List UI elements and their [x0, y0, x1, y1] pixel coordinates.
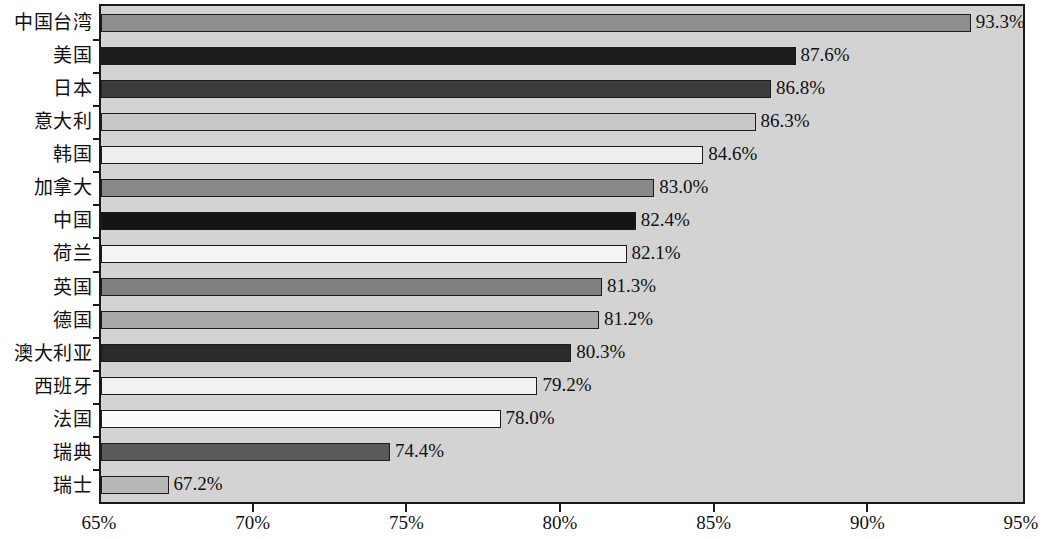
y-axis-tick [93, 204, 101, 206]
y-axis-tick [93, 370, 101, 372]
category-label: 瑞士 [0, 469, 92, 502]
bar [101, 179, 654, 197]
bar-track: 84.6% [101, 138, 1047, 171]
x-axis-tick-label: 95% [1004, 512, 1039, 534]
bar-track: 87.6% [101, 39, 1047, 72]
bar-row: 加拿大83.0% [0, 171, 1047, 204]
bar-row: 美国87.6% [0, 39, 1047, 72]
bar [101, 80, 771, 98]
y-axis-tick [93, 171, 101, 173]
y-axis-tick [93, 436, 101, 438]
bar-row: 意大利86.3% [0, 105, 1047, 138]
bar-row: 瑞士67.2% [0, 469, 1047, 502]
bar [101, 146, 703, 164]
bar-track: 79.2% [101, 370, 1047, 403]
x-axis-tick-label: 80% [543, 512, 578, 534]
category-label: 德国 [0, 304, 92, 337]
y-axis-tick [93, 469, 101, 471]
y-axis-tick [93, 39, 101, 41]
y-axis-tick [93, 403, 101, 405]
bar-track: 86.3% [101, 105, 1047, 138]
y-axis-tick [93, 237, 101, 239]
x-axis-tick [252, 504, 254, 512]
category-label: 意大利 [0, 105, 92, 138]
bar-track: 93.3% [101, 6, 1047, 39]
category-label: 中国 [0, 204, 92, 237]
bar [101, 410, 501, 428]
bar-value-label: 80.3% [571, 343, 625, 361]
x-axis-tick [713, 504, 715, 512]
bar [101, 344, 571, 362]
bar [101, 245, 627, 263]
bar-value-label: 74.4% [390, 442, 444, 460]
bar-track: 81.2% [101, 304, 1047, 337]
x-axis-tick [559, 504, 561, 512]
y-axis-tick [93, 138, 101, 140]
x-axis-tick-label: 90% [850, 512, 885, 534]
x-axis-tick-label: 65% [82, 512, 117, 534]
bar-value-label: 81.3% [602, 277, 656, 295]
bar-track: 74.4% [101, 436, 1047, 469]
bar-row: 瑞典74.4% [0, 436, 1047, 469]
bar-value-label: 82.1% [627, 244, 681, 262]
y-axis-tick [93, 105, 101, 107]
bar-track: 67.2% [101, 469, 1047, 502]
bar [101, 311, 599, 329]
bar-value-label: 83.0% [654, 178, 708, 196]
bar-value-label: 78.0% [501, 409, 555, 427]
category-label: 瑞典 [0, 436, 92, 469]
y-axis-tick [93, 337, 101, 339]
bar-value-label: 67.2% [169, 475, 223, 493]
bar [101, 113, 756, 131]
bar [101, 278, 602, 296]
bar-row: 荷兰82.1% [0, 237, 1047, 270]
bar-row: 韩国84.6% [0, 138, 1047, 171]
bar-track: 78.0% [101, 403, 1047, 436]
bar-row: 德国81.2% [0, 304, 1047, 337]
bar-row: 日本86.8% [0, 72, 1047, 105]
y-axis-tick [93, 271, 101, 273]
bar [101, 47, 796, 65]
category-label: 荷兰 [0, 237, 92, 270]
bar-track: 82.1% [101, 237, 1047, 270]
bar-row: 中国台湾93.3% [0, 6, 1047, 39]
x-axis-tick-label: 85% [696, 512, 731, 534]
x-axis-tick [866, 504, 868, 512]
category-label: 澳大利亚 [0, 337, 92, 370]
category-label: 加拿大 [0, 171, 92, 204]
category-label: 美国 [0, 39, 92, 72]
category-label: 日本 [0, 72, 92, 105]
bar-chart: 中国台湾93.3%美国87.6%日本86.8%意大利86.3%韩国84.6%加拿… [0, 0, 1047, 539]
bar-track: 86.8% [101, 72, 1047, 105]
bar [101, 14, 971, 32]
y-axis-tick [93, 304, 101, 306]
category-label: 中国台湾 [0, 6, 92, 39]
category-label: 韩国 [0, 138, 92, 171]
bar [101, 476, 169, 494]
x-axis-tick-labels: 65%70%75%80%85%90%95% [0, 512, 1047, 539]
y-axis-tick [93, 72, 101, 74]
bar-value-label: 87.6% [796, 46, 850, 64]
category-label: 西班牙 [0, 370, 92, 403]
bar-value-label: 84.6% [703, 145, 757, 163]
bar-value-label: 81.2% [599, 310, 653, 328]
bar-track: 81.3% [101, 271, 1047, 304]
bar-value-label: 86.3% [756, 112, 810, 130]
x-axis-tick-label: 75% [389, 512, 424, 534]
category-label: 英国 [0, 271, 92, 304]
bar-track: 80.3% [101, 337, 1047, 370]
bar-value-label: 82.4% [636, 211, 690, 229]
bar [101, 212, 636, 230]
bar [101, 443, 390, 461]
bar-row: 澳大利亚80.3% [0, 337, 1047, 370]
bar-row: 中国82.4% [0, 204, 1047, 237]
category-label: 法国 [0, 403, 92, 436]
bar-value-label: 86.8% [771, 79, 825, 97]
bar-value-label: 79.2% [537, 376, 591, 394]
bar-track: 82.4% [101, 204, 1047, 237]
bar-row: 英国81.3% [0, 271, 1047, 304]
bar-track: 83.0% [101, 171, 1047, 204]
bar-row: 西班牙79.2% [0, 370, 1047, 403]
x-axis-tick [405, 504, 407, 512]
x-axis-tick-label: 70% [235, 512, 270, 534]
